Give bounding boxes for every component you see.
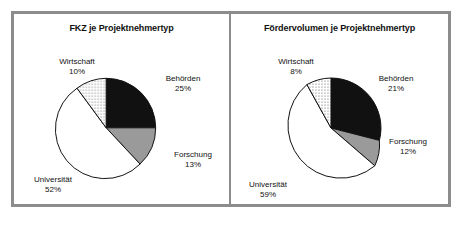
- slice-label-forschung-name: Forschung: [174, 150, 212, 159]
- slice-label-forschung-name: Forschung: [389, 137, 427, 146]
- slice-label-wirtschaft-value: 8%: [265, 67, 327, 77]
- slice-label-wirtschaft: Wirtschaft 10%: [46, 57, 108, 77]
- slice-label-forschung-value: 12%: [377, 147, 439, 157]
- slice-label-behoerden-name: Behörden: [166, 74, 201, 83]
- slice-label-behoerden-value: 25%: [152, 84, 214, 94]
- slice-label-universitaet: Universität 59%: [235, 180, 301, 200]
- slice-label-forschung: Forschung 13%: [162, 150, 224, 170]
- slice-label-wirtschaft-name: Wirtschaft: [59, 57, 95, 66]
- slice-label-behoerden: Behörden 21%: [365, 74, 427, 94]
- slice-label-wirtschaft-value: 10%: [46, 67, 108, 77]
- slice-label-behoerden-name: Behörden: [379, 74, 414, 83]
- slice-label-wirtschaft: Wirtschaft 8%: [265, 57, 327, 77]
- pie-slice-behoerden: [106, 78, 156, 128]
- chart-panel-fkz: FKZ je Projektnehmertyp W: [14, 14, 231, 204]
- slice-label-universitaet-value: 59%: [235, 190, 301, 200]
- chart-panel-foerdervolumen: Fördervolumen je Projektnehmertyp: [231, 14, 448, 204]
- chart-figure: FKZ je Projektnehmertyp W: [11, 11, 451, 207]
- slice-label-forschung: Forschung 12%: [377, 137, 439, 157]
- slice-label-universitaet-name: Universität: [249, 180, 287, 189]
- slice-label-wirtschaft-name: Wirtschaft: [278, 57, 314, 66]
- slice-label-behoerden-value: 21%: [365, 84, 427, 94]
- slice-label-universitaet-name: Universität: [34, 175, 72, 184]
- slice-label-universitaet: Universität 52%: [20, 175, 86, 195]
- slice-label-behoerden: Behörden 25%: [152, 74, 214, 94]
- pie-svg-foerdervolumen: [231, 14, 448, 204]
- slice-label-universitaet-value: 52%: [20, 185, 86, 195]
- slice-label-forschung-value: 13%: [162, 160, 224, 170]
- pie-chart-foerdervolumen: [231, 14, 448, 204]
